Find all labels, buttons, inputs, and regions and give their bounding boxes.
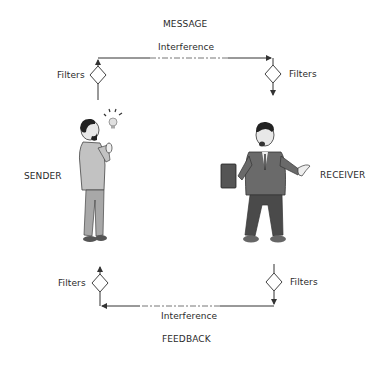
- bottom-left-filters-label: Filters: [58, 278, 86, 288]
- top-right-filter-diamond-icon: [265, 65, 281, 83]
- top-right-filters-label: Filters: [289, 69, 317, 79]
- receiver-figure: [221, 122, 310, 243]
- message-label: MESSAGE: [163, 19, 207, 29]
- bottom-right-filters-label: Filters: [290, 277, 318, 287]
- feedback-label: FEEDBACK: [162, 334, 211, 344]
- message-path: [90, 58, 281, 100]
- top-left-filter-diamond-icon: [90, 66, 106, 84]
- idea-rays-icon: [104, 109, 122, 116]
- receiver-label: RECEIVER: [320, 170, 365, 180]
- sender-figure: [79, 109, 122, 242]
- lightbulb-icon: [109, 118, 117, 129]
- bottom-right-filter-diamond-icon: [266, 273, 282, 291]
- folder-icon: [221, 164, 236, 188]
- bottom-interference-label: Interference: [161, 311, 217, 321]
- feedback-path: [92, 264, 282, 306]
- sender-label: SENDER: [24, 171, 62, 181]
- bottom-left-filter-diamond-icon: [92, 274, 108, 292]
- top-left-filters-label: Filters: [57, 70, 85, 80]
- top-interference-label: Interference: [158, 42, 214, 52]
